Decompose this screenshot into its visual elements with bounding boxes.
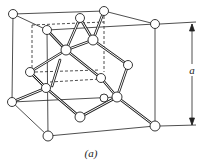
atom [61,45,71,55]
atom [124,61,133,70]
atom [150,121,160,131]
atom [43,26,52,35]
atom [26,68,35,77]
lattice-parameter-label: a [186,64,198,76]
atom [42,84,51,93]
atom [76,14,85,23]
atom [151,20,160,29]
atom [43,131,53,141]
atom [8,98,17,107]
atom [100,7,109,16]
diamond-cubic-lattice-diagram [0,0,204,165]
atom [75,112,85,122]
atom [88,35,98,45]
figure-caption: (a) [80,147,102,159]
atom [112,92,122,102]
atom [9,10,18,19]
atom [100,94,108,102]
atom [97,74,106,83]
